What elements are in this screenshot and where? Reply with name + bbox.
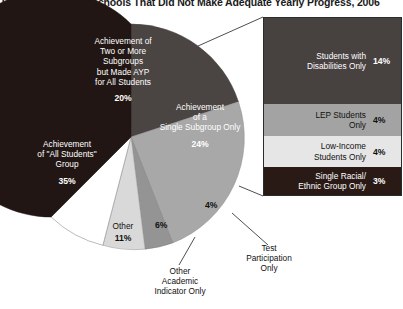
callout-test-participation-only: Test Participation Only [232, 243, 306, 274]
pie-label-line-3: Single Subgroup Only [160, 122, 241, 132]
pie-label-percent: 11% [100, 233, 146, 243]
pie-label-line-2: of a [193, 112, 207, 122]
legend-row-low-income-students-only[interactable]: Low-Income Students Only 4% [264, 136, 401, 167]
legend-label: LEP Students Only [315, 110, 373, 130]
pie-label-line-5: for All Students [95, 77, 151, 87]
pie-label-line-1: Achievement of [94, 36, 151, 46]
pie-label-all-students-group: Achievement of "All Students" Group 35% [13, 139, 121, 186]
legend-label-line-1: Low-Income [321, 141, 366, 151]
legend-percent: 3% [373, 176, 395, 186]
pie-label-other: Other 11% [100, 221, 146, 243]
legend-label: Students with Disabilities Only [307, 51, 373, 71]
legend-row-lep-students-only[interactable]: LEP Students Only 4% [264, 104, 401, 136]
legend-label-line-2: Ethnic Group Only [298, 181, 366, 191]
legend-label-line-2: Disabilities Only [307, 61, 366, 71]
legend-percent: 14% [373, 56, 395, 66]
legend-label-line-2: Only [349, 120, 366, 130]
callout-line-1: Test [261, 243, 276, 253]
legend-label: Single Racial/ Ethnic Group Only [298, 171, 373, 191]
legend-label: Low-Income Students Only [314, 141, 373, 161]
callout-line-3: Only [260, 263, 277, 273]
pie-label-line-1: Achievement [43, 139, 91, 149]
pie-label-line-2: Two or More [100, 46, 146, 56]
pie-label-single-subgroup-only: Achievement of a Single Subgroup Only 24… [139, 102, 261, 149]
pie-label-percent: 35% [13, 176, 121, 186]
legend-percent: 4% [373, 147, 395, 157]
pie-label-line-1: Achievement [176, 102, 224, 112]
callout-line-3: Indicator Only [154, 286, 205, 296]
callout-line-1: Other [170, 266, 191, 276]
pie-label-line-3: Subgroups [103, 56, 143, 66]
pie-label-line-2: of "All Students" [37, 149, 96, 159]
pie-percent-test-participation: 4% [205, 200, 217, 210]
pie-percent-other-academic-indicator: 6% [155, 220, 167, 230]
pie-label-percent: 24% [139, 139, 261, 149]
callout-other-academic-indicator-only: Other Academic Indicator Only [140, 266, 220, 297]
legend-label-line-1: Students with [316, 51, 366, 61]
legend-percent: 4% [373, 115, 395, 125]
pie-label-line-1: Other [113, 221, 134, 231]
pie-label-line-4: but Made AYP [97, 67, 149, 77]
pie-label-two-or-more-subgroups: Achievement of Two or More Subgroups but… [57, 36, 189, 103]
callout-line-2: Academic [162, 276, 198, 286]
legend-row-single-racial-ethnic-group-only[interactable]: Single Racial/ Ethnic Group Only 3% [264, 167, 401, 195]
pie-label-line-3: Group [55, 159, 78, 169]
chart-figure: Targets Missed by Schools That Did Not M… [0, 0, 403, 309]
breakout-legend-box: Students with Disabilities Only 14% LEP … [263, 17, 402, 196]
legend-row-students-with-disabilities-only[interactable]: Students with Disabilities Only 14% [264, 18, 401, 104]
legend-label-line-1: Single Racial/ [315, 171, 366, 181]
legend-label-line-1: LEP Students [315, 110, 366, 120]
callout-line-2: Participation [246, 253, 292, 263]
legend-label-line-2: Students Only [314, 152, 366, 162]
